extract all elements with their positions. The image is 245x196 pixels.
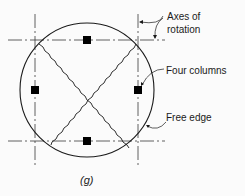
column-top <box>83 36 91 44</box>
columns <box>31 36 142 145</box>
label-axes-of-rotation-line1: Axes of <box>167 11 201 22</box>
yield-lines <box>39 44 136 148</box>
label-free-edge: Free edge <box>166 112 212 123</box>
yield-line-diagonal-2 <box>51 44 136 145</box>
leader-lines <box>140 16 166 128</box>
figure-caption: (g) <box>80 174 94 186</box>
arrowhead-axes-1 <box>139 20 143 24</box>
leader-arrowheads <box>139 20 157 128</box>
column-bottom <box>83 137 91 145</box>
label-axes-of-rotation-line2: rotation <box>167 24 200 35</box>
leader-axes-1 <box>140 16 163 23</box>
yield-line-diagonal-1 <box>39 44 129 148</box>
column-left <box>31 86 39 94</box>
slab-yield-line-diagram: Axes of rotation Four columns Free edge … <box>0 0 245 196</box>
column-right <box>134 86 142 94</box>
arrowhead-axes-2 <box>153 35 157 39</box>
arrowhead-free-edge <box>146 125 150 128</box>
label-four-columns: Four columns <box>166 65 227 76</box>
